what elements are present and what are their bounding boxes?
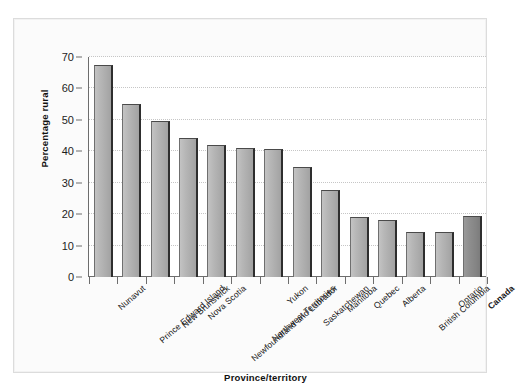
y-tick-mark-70 [76,57,82,58]
bar-nunavut [94,65,113,277]
y-tick-label-0: 0 [68,271,74,283]
plot-area [88,57,486,277]
bar-alberta [378,220,397,278]
y-axis: 010203040506070 [54,57,82,277]
y-tick-mark-50 [76,119,82,120]
y-tick-mark-60 [76,88,82,89]
gridline-40 [89,150,486,151]
page-top-artifact [180,0,330,4]
y-tick-label-60: 60 [62,82,74,94]
y-tick-mark-10 [76,245,82,246]
gridline-10 [89,245,486,246]
bar-canada [463,216,482,277]
bar-saskatchewan [293,167,312,277]
y-tick-label-50: 50 [62,114,74,126]
y-tick-label-40: 40 [62,145,74,157]
y-tick-label-30: 30 [62,177,74,189]
bar-manitoba [321,190,340,277]
gridline-50 [89,119,486,120]
bar-northwest-territories [236,148,255,277]
x-axis-title: Province/territory [14,372,517,383]
x-label-canada: Canada [486,283,516,311]
gridline-70 [89,56,486,57]
bar-british-columbia [406,232,425,277]
scanned-page-frame: Percentage rural 010203040506070 Nunavut… [13,18,487,373]
y-tick-mark-30 [76,182,82,183]
y-tick-label-20: 20 [62,208,74,220]
gridline-60 [89,87,486,88]
bar-new-brunswick [151,121,170,277]
x-label-alberta: Alberta [399,283,427,309]
y-tick-label-70: 70 [62,51,74,63]
x-axis-category-labels: NunavutPrince Edward IslandNew Brunswick… [88,283,488,378]
bar-newfoundland-and-labrador [207,145,226,277]
bar-quebec [350,217,369,277]
y-tick-mark-0 [76,277,82,278]
x-label-nunavut: Nunavut [116,283,147,312]
bar-yukon [264,149,283,277]
y-tick-mark-40 [76,151,82,152]
bar-prince-edward-island [122,104,141,277]
bar-nova-scotia [179,138,198,277]
y-axis-title: Percentage rural [39,59,50,199]
y-tick-mark-20 [76,214,82,215]
y-tick-label-10: 10 [62,240,74,252]
gridline-20 [89,213,486,214]
bar-ontario [435,232,454,277]
gridline-30 [89,182,486,183]
